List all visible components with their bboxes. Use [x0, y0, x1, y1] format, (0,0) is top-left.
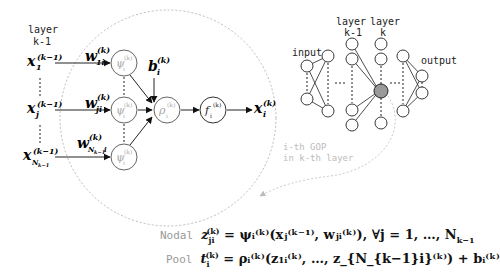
nodal-node: ψi(k): [111, 144, 137, 170]
highlighted-gop-node: [374, 84, 388, 98]
svg-text:i: i: [123, 112, 125, 119]
svg-text:(k): (k): [213, 101, 221, 108]
svg-text:1: 1: [36, 62, 42, 72]
svg-text:x: x: [253, 100, 263, 116]
gop-label: i-th GOP: [283, 142, 327, 152]
svg-text:(k): (k): [89, 132, 102, 142]
svg-text:k: k: [380, 27, 386, 38]
svg-text:(k): (k): [97, 92, 110, 102]
svg-text:i: i: [210, 112, 212, 119]
output-xi: xi(k): [253, 98, 276, 119]
weight-w1i: w1i(k): [85, 45, 110, 67]
input-x1: x1(k−1): [26, 52, 63, 72]
activation-node: fi(k): [200, 97, 226, 123]
svg-text:(k−1): (k−1): [33, 146, 59, 156]
bias-bi: bi(k): [148, 55, 170, 77]
svg-text:layer: layer: [336, 16, 366, 27]
nodal-node: ψi(k): [111, 50, 137, 76]
svg-text:(k): (k): [167, 101, 175, 108]
svg-text:k−1: k−1: [38, 162, 49, 168]
pool-node: ρi(k): [154, 97, 180, 123]
svg-text:1i: 1i: [96, 57, 105, 67]
nodal-equation: Nodalzji(k) = ψᵢ⁽ᵏ⁾(xⱼ⁽ᵏ⁻¹⁾, wⱼᵢ⁽ᵏ⁾), ∀j…: [160, 226, 475, 245]
svg-text:i: i: [123, 159, 125, 166]
weight-wNi: wNk−1i(k): [77, 132, 107, 155]
svg-text:x: x: [26, 100, 36, 116]
svg-text:(k): (k): [124, 148, 132, 155]
svg-text:in k-th layer: in k-th layer: [283, 153, 354, 163]
svg-text:k-1: k-1: [33, 36, 51, 47]
svg-text:k-1: k-1: [344, 27, 362, 38]
svg-text:i: i: [157, 67, 160, 77]
svg-text:i: i: [166, 112, 168, 119]
weight-wji: wji(k): [85, 92, 110, 114]
svg-text:(k): (k): [124, 54, 132, 61]
svg-text:(k−1): (k−1): [37, 99, 63, 109]
nodal-node: ψi(k): [111, 97, 137, 123]
svg-text:(k): (k): [124, 101, 132, 108]
output-label: output: [421, 55, 457, 66]
svg-text:i: i: [263, 109, 266, 119]
svg-text:layer: layer: [370, 16, 400, 27]
svg-text:x: x: [22, 147, 32, 163]
svg-text:ji: ji: [94, 104, 102, 114]
svg-text:i: i: [123, 65, 125, 72]
svg-text:(k): (k): [263, 98, 276, 108]
layer-label: layer: [28, 24, 58, 35]
input-xj: xj(k−1): [26, 99, 63, 119]
input-label: input: [292, 47, 322, 58]
svg-text:i: i: [104, 145, 107, 154]
svg-text:(k): (k): [97, 45, 110, 55]
input-xN: xNk−1(k−1): [22, 146, 59, 168]
svg-text:(k): (k): [157, 55, 170, 65]
svg-text:x: x: [26, 53, 36, 69]
pool-equation: Poolti(k) = ρᵢ⁽ᵏ⁾(z₁ᵢ⁽ᵏ⁾, …, z_{N_{k−1}i…: [166, 250, 500, 269]
svg-text:(k−1): (k−1): [37, 52, 63, 62]
svg-text:ρ: ρ: [158, 104, 166, 117]
